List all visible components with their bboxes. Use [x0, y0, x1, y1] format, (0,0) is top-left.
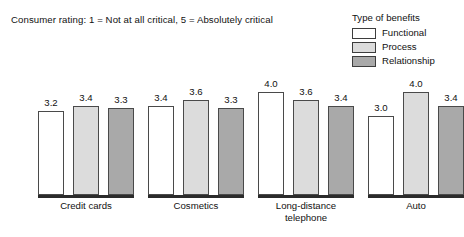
bar[interactable]	[328, 106, 354, 195]
category-label-line: Credit cards	[38, 200, 134, 212]
legend-item-relationship: Relationship	[352, 54, 463, 68]
bar[interactable]	[368, 116, 394, 195]
bar-value-label: 3.3	[224, 94, 237, 105]
bar-slot[interactable]: 3.2	[38, 78, 64, 195]
bar-slot[interactable]: 3.6	[293, 78, 319, 195]
bar-value-label: 3.4	[79, 92, 92, 103]
bar-slot[interactable]: 3.4	[73, 78, 99, 195]
category-label-line: telephone	[258, 212, 354, 224]
group-baseline	[368, 195, 464, 198]
bar[interactable]	[438, 106, 464, 195]
bar[interactable]	[403, 92, 429, 195]
bar-value-label: 3.6	[299, 86, 312, 97]
bar-value-label: 3.2	[44, 97, 57, 108]
plot-area: 3.23.43.33.43.63.34.03.63.43.04.03.4	[0, 78, 463, 198]
bar-group-bars: 3.43.63.3	[148, 78, 244, 195]
bar-group: 4.03.63.4	[258, 78, 354, 198]
group-baseline	[258, 195, 354, 198]
bar-slot[interactable]: 4.0	[258, 78, 284, 195]
bar-group-bars: 3.23.43.3	[38, 78, 134, 195]
bar-slot[interactable]: 3.6	[183, 78, 209, 195]
bar-slot[interactable]: 3.3	[218, 78, 244, 195]
category-axis-labels: Credit cardsCosmeticsLong-distanceteleph…	[0, 200, 463, 237]
bar-value-label: 3.3	[114, 94, 127, 105]
bar[interactable]	[73, 106, 99, 195]
bar-value-label: 3.6	[189, 86, 202, 97]
category-label: Credit cards	[38, 200, 134, 212]
bar-slot[interactable]: 3.4	[148, 78, 174, 195]
category-label-line: Cosmetics	[148, 200, 244, 212]
bar-slot[interactable]: 3.3	[108, 78, 134, 195]
bar[interactable]	[258, 92, 284, 195]
bar-value-label: 3.4	[334, 92, 347, 103]
bar-value-label: 3.0	[374, 102, 387, 113]
bar[interactable]	[218, 108, 244, 195]
category-label: Long-distancetelephone	[258, 200, 354, 224]
category-label-line: Auto	[368, 200, 464, 212]
bar-group: 3.23.43.3	[38, 78, 134, 198]
legend-label-relationship: Relationship	[382, 55, 435, 67]
legend-swatch-functional	[352, 28, 376, 39]
legend-swatch-process	[352, 42, 376, 53]
legend-label-process: Process	[382, 41, 417, 53]
bar-slot[interactable]: 3.0	[368, 78, 394, 195]
legend-item-process: Process	[352, 40, 463, 54]
bar[interactable]	[38, 111, 64, 195]
legend-label-functional: Functional	[382, 27, 426, 39]
bar[interactable]	[293, 100, 319, 195]
chart-title: Consumer rating: 1 = Not at all critical…	[11, 14, 273, 26]
bar-group-bars: 4.03.63.4	[258, 78, 354, 195]
bar-group-bars: 3.04.03.4	[368, 78, 464, 195]
legend-swatch-relationship	[352, 56, 376, 67]
bar-group: 3.04.03.4	[368, 78, 464, 198]
legend: Type of benefits Functional Process Rela…	[352, 12, 463, 68]
bar[interactable]	[148, 106, 174, 195]
bar[interactable]	[183, 100, 209, 195]
bar-value-label: 4.0	[409, 78, 422, 89]
group-baseline	[148, 195, 244, 198]
bar[interactable]	[108, 108, 134, 195]
bar-slot[interactable]: 3.4	[328, 78, 354, 195]
legend-title: Type of benefits	[352, 12, 463, 24]
bar-value-label: 3.4	[154, 92, 167, 103]
group-baseline	[38, 195, 134, 198]
bar-slot[interactable]: 3.4	[438, 78, 464, 195]
bar-value-label: 4.0	[264, 78, 277, 89]
category-label: Cosmetics	[148, 200, 244, 212]
bar-group: 3.43.63.3	[148, 78, 244, 198]
bar-value-label: 3.4	[444, 92, 457, 103]
legend-item-functional: Functional	[352, 26, 463, 40]
bar-slot[interactable]: 4.0	[403, 78, 429, 195]
category-label-line: Long-distance	[258, 200, 354, 212]
category-label: Auto	[368, 200, 464, 212]
